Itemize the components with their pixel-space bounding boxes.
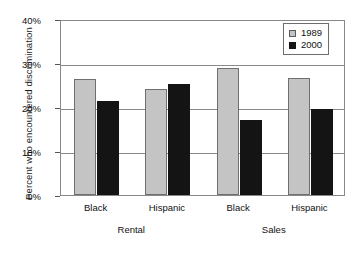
bar-1989-2 [217, 68, 239, 195]
bar-2000-1 [168, 84, 190, 195]
legend-swatch-black [289, 42, 296, 49]
x-tick-label: Black [227, 202, 250, 213]
y-tick-label: 40% [1, 15, 41, 26]
y-tick-label: 10% [1, 147, 41, 158]
y-tick-label: 20% [1, 103, 41, 114]
bar-1989-1 [145, 89, 167, 195]
x-tick-label: Hispanic [291, 202, 327, 213]
legend-label: 1989 [301, 27, 322, 39]
y-axis-title: Percent who encountered discrimination [23, 14, 34, 214]
gridline [61, 65, 344, 66]
bar-2000-0 [97, 101, 119, 195]
legend-item-1989: 1989 [289, 27, 322, 39]
bar-chart-figure: Percent who encountered discrimination 0… [0, 0, 359, 255]
bar-1989-3 [288, 78, 310, 195]
legend-item-2000: 2000 [289, 39, 322, 51]
legend-label: 2000 [301, 39, 322, 51]
x-group-label-rental: Rental [118, 224, 145, 235]
x-tick-label: Hispanic [149, 202, 185, 213]
y-tick-label: 0% [1, 191, 41, 202]
bar-2000-2 [240, 120, 262, 195]
x-group-label-sales: Sales [262, 224, 286, 235]
y-tick-label: 30% [1, 59, 41, 70]
legend-swatch-light-gray [289, 30, 296, 37]
chart-legend: 19892000 [283, 23, 329, 55]
y-tick-mark [55, 196, 60, 197]
bar-2000-3 [311, 109, 333, 195]
bar-1989-0 [74, 79, 96, 195]
x-tick-label: Black [84, 202, 107, 213]
